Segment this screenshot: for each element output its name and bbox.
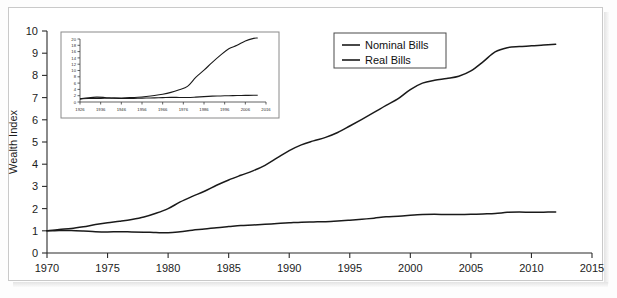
chart-canvas: 012345678910 197019751980198519901995200… — [0, 0, 617, 298]
inset-y-tick-label: 10 — [71, 68, 76, 73]
inset-x-tick-label: 1936 — [96, 107, 106, 112]
x-tick-label: 1980 — [156, 262, 180, 274]
chart-figure: 012345678910 197019751980198519901995200… — [0, 0, 617, 298]
inset-x-tick-label: 1976 — [179, 107, 189, 112]
inset-x-tick-label: 1946 — [117, 107, 127, 112]
y-tick-label: 10 — [26, 25, 38, 37]
legend-label: Nominal Bills — [365, 39, 429, 51]
y-tick-label: 3 — [32, 180, 38, 192]
inset-chart: 0246810121416182019261936194619561966197… — [61, 32, 279, 118]
x-tick-label: 1995 — [338, 262, 362, 274]
y-tick-label: 7 — [32, 92, 38, 104]
y-tick-label: 8 — [32, 69, 38, 81]
y-tick-label: 2 — [32, 203, 38, 215]
x-tick-label: 1975 — [95, 262, 119, 274]
inset-x-tick-label: 1966 — [158, 107, 168, 112]
inset-y-tick-label: 18 — [71, 43, 76, 48]
y-tick-label: 1 — [32, 225, 38, 237]
x-axis: 1970197519801985199019952000200520102015 — [35, 253, 604, 274]
x-tick-label: 2015 — [580, 262, 604, 274]
y-tick-label: 0 — [32, 247, 38, 259]
x-tick-label: 1990 — [277, 262, 301, 274]
series-line-real-bills — [47, 212, 556, 233]
x-tick-label: 1970 — [35, 262, 59, 274]
y-tick-label: 6 — [32, 114, 38, 126]
inset-frame — [61, 32, 279, 118]
x-tick-label: 2005 — [459, 262, 483, 274]
x-tick-label: 1985 — [216, 262, 240, 274]
inset-x-tick-label: 2006 — [241, 107, 251, 112]
legend: Nominal BillsReal Bills — [334, 33, 446, 68]
inset-x-tick-label: 1986 — [199, 107, 209, 112]
legend-label: Real Bills — [365, 54, 411, 66]
inset-x-tick-label: 2016 — [261, 107, 271, 112]
x-tick-label: 2000 — [398, 262, 422, 274]
inset-x-tick-label: 1926 — [75, 107, 85, 112]
inset-y-tick-label: 20 — [71, 37, 76, 42]
inset-x-tick-label: 1996 — [220, 107, 230, 112]
y-axis-title: Wealth Index — [7, 110, 19, 175]
inset-x-tick-label: 1956 — [137, 107, 147, 112]
inset-y-tick-label: 14 — [71, 56, 76, 61]
inset-y-tick-label: 16 — [71, 49, 76, 54]
x-tick-label: 2010 — [519, 262, 543, 274]
y-tick-label: 4 — [32, 158, 38, 170]
inset-y-tick-label: 12 — [71, 62, 76, 67]
y-axis: 012345678910 — [26, 25, 47, 259]
y-tick-label: 9 — [32, 47, 38, 59]
y-tick-label: 5 — [32, 136, 38, 148]
